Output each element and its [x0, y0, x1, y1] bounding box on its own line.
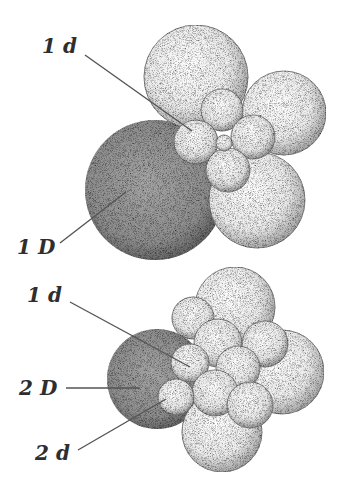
bottom-embryo	[107, 267, 324, 472]
cell-center	[216, 135, 232, 151]
label-top-1D: 1 D	[17, 235, 56, 259]
cell-lower-right	[227, 382, 273, 428]
label-top-1d: 1 d	[42, 34, 77, 58]
label-bottom-2D: 2 D	[18, 376, 58, 400]
embryo-cleavage-diagram: 1 d 1 D 1 d 2 D 2 d	[0, 0, 342, 489]
top-embryo	[85, 25, 326, 260]
label-bottom-1d: 1 d	[27, 283, 62, 307]
label-bottom-2d: 2 d	[34, 441, 70, 465]
cell-2d	[158, 379, 194, 415]
cell-lower-quartet	[206, 148, 250, 192]
